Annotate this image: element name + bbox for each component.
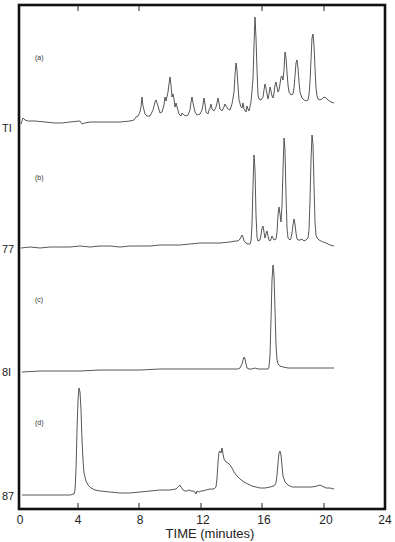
chromatogram-figure: 0 4 8 12 16 20 24 TIME (minutes) (a) (b)…: [0, 0, 395, 542]
side-label-b: 77: [2, 243, 14, 255]
x-tick-labels: 0 4 8 12 16 20 24: [17, 513, 392, 527]
x-tick-label: 20: [319, 513, 333, 527]
x-tick-label: 8: [137, 513, 144, 527]
panel-label-b: (b): [35, 174, 44, 182]
x-axis-label: TIME (minutes): [166, 526, 255, 541]
x-tick-label: 4: [75, 513, 82, 527]
trace-a: [21, 17, 334, 124]
panel-label-c: (c): [35, 296, 43, 304]
plot-frame: [19, 5, 385, 509]
side-label-d: 87: [2, 490, 14, 502]
x-tick-label: 24: [378, 513, 392, 527]
trace-c: [22, 265, 334, 372]
panel-label-a: (a): [35, 54, 44, 62]
x-tick-label: 12: [196, 513, 210, 527]
trace-d: [22, 388, 334, 495]
panel-label-d: (d): [35, 419, 44, 427]
side-label-c: 8I: [2, 366, 11, 378]
side-label-a: TI: [2, 122, 12, 134]
trace-b: [21, 135, 334, 248]
x-tick-label: 0: [17, 513, 24, 527]
x-tick-label: 16: [257, 513, 271, 527]
